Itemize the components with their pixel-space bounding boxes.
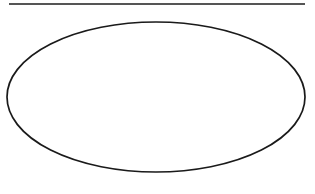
drawing-canvas (0, 0, 315, 194)
figure-svg (0, 0, 315, 194)
ellipse-shape (7, 22, 305, 172)
